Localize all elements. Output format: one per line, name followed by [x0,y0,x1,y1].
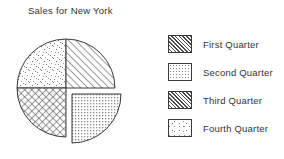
chart-legend: First Quarter Second Quarter Third Quart… [168,33,284,151]
pie-slice-fourth-quarter[interactable] [17,39,66,88]
legend-label-second-quarter: Second Quarter [203,67,273,78]
pie-svg [0,22,160,159]
legend-swatch-second-quarter-icon [168,63,192,81]
pie-slice-first-quarter[interactable] [66,39,115,88]
pie-slice-second-quarter-exploded[interactable] [72,94,121,143]
legend-label-first-quarter: First Quarter [203,39,259,50]
pie-plot-area [0,22,160,159]
legend-label-third-quarter: Third Quarter [203,95,262,106]
chart-title: Sales for New York [28,5,113,16]
legend-item-fourth-quarter[interactable]: Fourth Quarter [168,117,284,139]
legend-label-fourth-quarter: Fourth Quarter [203,123,268,134]
legend-swatch-first-quarter-icon [168,35,192,53]
legend-swatch-fourth-quarter-icon [168,119,192,137]
legend-item-third-quarter[interactable]: Third Quarter [168,89,284,111]
pie-chart-figure: Sales for New York [0,0,284,159]
legend-swatch-third-quarter-icon [168,91,192,109]
legend-item-first-quarter[interactable]: First Quarter [168,33,284,55]
pie-slice-third-quarter[interactable] [17,88,66,137]
legend-item-second-quarter[interactable]: Second Quarter [168,61,284,83]
